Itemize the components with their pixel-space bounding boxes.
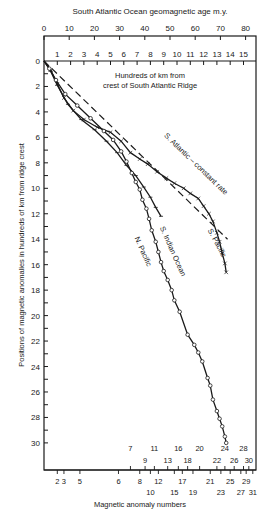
data-point-circle xyxy=(147,217,151,221)
km-tick-label: 11 xyxy=(186,50,195,59)
anomaly-label: 26 xyxy=(230,456,238,465)
km-tick-label: 5 xyxy=(108,50,113,59)
data-point-circle xyxy=(220,425,224,429)
data-point-cross xyxy=(202,204,206,208)
anomaly-label: 15 xyxy=(170,488,178,497)
y-tick-label: 28 xyxy=(31,413,40,422)
data-point-circle xyxy=(206,376,210,380)
anomaly-label: 9 xyxy=(143,456,147,465)
top-tick-label: 80 xyxy=(241,24,250,33)
data-point-circle xyxy=(141,198,145,202)
bottom-axis-title: Magnetic anomaly numbers xyxy=(94,500,186,509)
data-point-circle xyxy=(192,343,196,347)
data-point-circle xyxy=(145,207,149,211)
anomaly-label: 16 xyxy=(174,444,182,453)
data-point-circle xyxy=(159,260,163,264)
anomaly-label: 7 xyxy=(128,444,132,453)
data-point-circle xyxy=(75,104,79,108)
km-axis-ticks: 123456789101112131415 xyxy=(55,50,248,65)
data-point-circle xyxy=(211,398,215,402)
top-tick-label: 40 xyxy=(140,24,149,33)
anomaly-label: 20 xyxy=(195,444,203,453)
km-tick-label: 8 xyxy=(148,50,153,59)
data-point-cross xyxy=(196,197,200,201)
data-point-circle xyxy=(89,116,93,120)
km-tick-label: 13 xyxy=(212,50,221,59)
data-point-circle xyxy=(54,78,58,82)
data-point-circle xyxy=(157,250,161,254)
anomaly-label: 22 xyxy=(213,456,221,465)
data-point-cross xyxy=(138,157,142,161)
top-tick-label: 10 xyxy=(65,24,74,33)
data-point-circle xyxy=(173,299,177,303)
data-point-circle xyxy=(166,278,170,282)
data-point-circle xyxy=(130,171,134,175)
y-tick-label: 14 xyxy=(31,235,40,244)
anomaly-label: 6 xyxy=(116,477,120,486)
anomaly-label: 18 xyxy=(183,456,191,465)
data-point-circle xyxy=(154,240,158,244)
km-tick-label: 3 xyxy=(82,50,87,59)
anomaly-label: 12 xyxy=(154,477,162,486)
data-point-cross xyxy=(129,151,133,155)
top-tick-label: 70 xyxy=(216,24,225,33)
km-axis-title-line2: crest of South Atlantic Ridge xyxy=(103,81,197,90)
anomaly-label: 17 xyxy=(178,477,186,486)
series-n-pacific xyxy=(44,61,226,443)
km-tick-label: 12 xyxy=(199,50,208,59)
data-point-circle xyxy=(162,269,166,273)
km-tick-label: 1 xyxy=(55,50,60,59)
data-point-cross xyxy=(189,192,193,196)
data-point-circle xyxy=(102,129,106,133)
anomaly-label: 23 xyxy=(217,488,225,497)
top-tick-label: 30 xyxy=(115,24,124,33)
top-tick-label: 0 xyxy=(42,24,47,33)
anomaly-label: 10 xyxy=(146,488,154,497)
anomaly-label: 2 xyxy=(55,477,59,486)
top-axis-ticks: 01020304050607080 xyxy=(42,24,251,40)
top-tick-label: 60 xyxy=(191,24,200,33)
curve-label: S. Pacific xyxy=(206,227,229,259)
y-tick-label: 18 xyxy=(31,286,40,295)
data-point-circle xyxy=(178,310,182,314)
anomaly-label: 29 xyxy=(242,477,250,486)
y-tick-label: 26 xyxy=(31,388,40,397)
y-tick-label: 0 xyxy=(36,57,41,66)
anomaly-label: 30 xyxy=(245,456,253,465)
anomaly-label: 28 xyxy=(239,444,247,453)
y-tick-label: 30 xyxy=(31,439,40,448)
data-point-circle xyxy=(111,138,115,142)
top-tick-label: 20 xyxy=(90,24,99,33)
km-tick-label: 14 xyxy=(226,50,235,59)
anomaly-label: 13 xyxy=(164,456,172,465)
anomaly-label: 3 xyxy=(62,477,66,486)
y-axis-ticks: 024681012141618202224262830 xyxy=(31,57,48,448)
data-point-circle xyxy=(223,435,227,439)
anomaly-label: 8 xyxy=(138,477,142,486)
km-tick-label: 6 xyxy=(122,50,127,59)
y-tick-label: 4 xyxy=(36,108,41,117)
data-point-circle xyxy=(208,384,212,388)
curve-label: S. Atlantic – constant rate xyxy=(162,131,229,197)
data-point-cross xyxy=(119,139,123,143)
top-axis-title: South Atlantic Ocean geomagnetic age m.y… xyxy=(72,7,227,16)
data-point-circle xyxy=(125,160,129,164)
top-tick-label: 50 xyxy=(166,24,175,33)
data-point-circle xyxy=(215,409,219,413)
anomaly-label: 19 xyxy=(189,488,197,497)
anomaly-label: 27 xyxy=(237,488,245,497)
km-tick-label: 7 xyxy=(135,50,140,59)
y-axis-title: Positions of magnetic anomalies in hundr… xyxy=(17,142,26,366)
data-point-circle xyxy=(200,360,204,364)
data-point-circle xyxy=(150,229,154,233)
y-tick-label: 12 xyxy=(31,210,40,219)
y-tick-label: 24 xyxy=(31,363,40,372)
y-tick-label: 16 xyxy=(31,261,40,270)
curve-label: N. Pacific xyxy=(133,235,154,268)
anomaly-label: 5 xyxy=(78,477,82,486)
data-point-circle xyxy=(138,188,142,192)
data-series xyxy=(44,61,228,445)
y-tick-label: 8 xyxy=(36,159,41,168)
data-point-circle xyxy=(196,351,200,355)
km-tick-label: 4 xyxy=(95,50,100,59)
